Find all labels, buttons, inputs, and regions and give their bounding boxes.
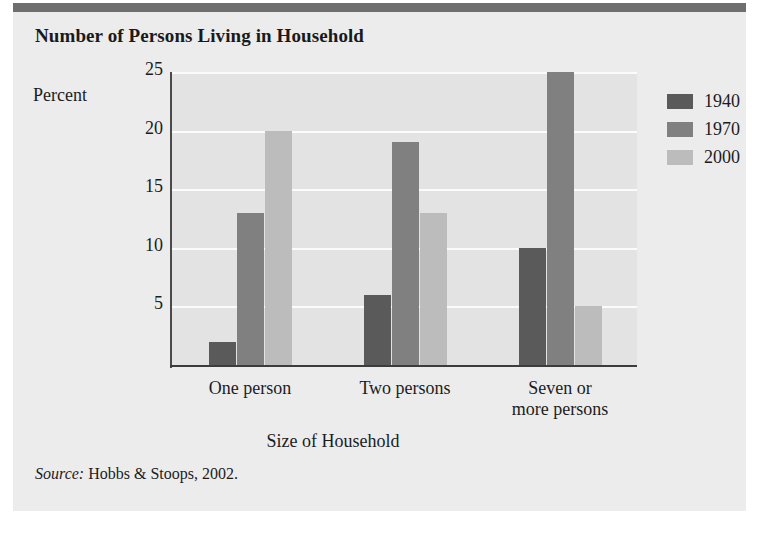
bar-2000-one-person [265,131,292,365]
bar-2000-two-persons [420,213,447,365]
y-axis-line [170,72,172,368]
bar-1940-two-persons [364,295,391,365]
y-tick-label-10: 10 [123,235,163,256]
y-tick-label-5: 5 [123,293,163,314]
legend-item-1940: 1940 [667,87,740,115]
y-axis-title: Percent [33,85,87,106]
bar-1970-seven-or-more-persons [547,72,574,365]
legend-label-1940: 1940 [704,91,740,112]
y-tick-label-15: 15 [123,176,163,197]
plot-area [172,72,637,365]
bar-2000-seven-or-more-persons [575,306,602,365]
source-label: Source: [35,465,84,482]
bar-1970-two-persons [392,142,419,365]
y-tick-label-25: 25 [123,59,163,80]
top-rule-decoration [13,3,746,12]
bar-1940-seven-or-more-persons [519,248,546,365]
legend-item-2000: 2000 [667,143,740,171]
x-axis-line [170,365,637,367]
bar-1940-one-person [209,342,236,365]
x-category-label-seven-or-more-persons: Seven ormore persons [465,378,655,420]
legend-label-2000: 2000 [704,147,740,168]
source-note: Source: Hobbs & Stoops, 2002. [35,465,238,483]
figure-card: Number of Persons Living in Household Pe… [13,3,746,511]
y-tick-label-20: 20 [123,118,163,139]
legend-label-1970: 1970 [704,119,740,140]
chart-title: Number of Persons Living in Household [35,25,364,47]
x-axis-title: Size of Household [13,431,653,452]
legend-swatch-1940 [667,94,693,109]
x-label-line: more persons [465,399,655,420]
bar-1970-one-person [237,213,264,365]
legend-swatch-1970 [667,122,693,137]
legend: 194019702000 [667,87,740,171]
legend-swatch-2000 [667,150,693,165]
legend-item-1970: 1970 [667,115,740,143]
source-text: Hobbs & Stoops, 2002. [88,465,238,482]
x-label-line: Seven or [465,378,655,399]
